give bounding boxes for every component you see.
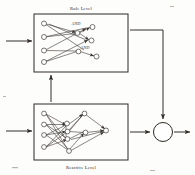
- reactive-input-node: [42, 111, 47, 116]
- scan-artifacts: [3, 6, 174, 171]
- rule-output-nodes: [89, 25, 99, 60]
- rule-output-node: [94, 54, 99, 59]
- reactive-hidden-node: [67, 149, 72, 154]
- rule-to-junction-arrow: [130, 30, 163, 119]
- reactive-input-node: [42, 145, 47, 150]
- block-diagram-svg: Rule Level: [0, 0, 195, 175]
- rule-network-edges: [45, 24, 95, 63]
- rule-level-box: [34, 14, 128, 72]
- rule-input-nodes: [42, 21, 47, 65]
- reactive-output-node: [104, 128, 109, 133]
- rule-input-node: [42, 48, 47, 53]
- reactive-hidden-node: [65, 121, 70, 126]
- reactive-input-nodes: [42, 111, 47, 149]
- reactive-hidden-node: [65, 129, 70, 134]
- reactive-hidden-node: [83, 130, 88, 135]
- rule-and-nodes: [75, 31, 81, 54]
- and-label-upper: AND: [72, 21, 81, 26]
- output-summing-junction: [154, 123, 173, 142]
- rule-input-node: [42, 35, 47, 40]
- rule-level-label: Rule Level: [70, 6, 92, 11]
- rule-output-node: [90, 25, 95, 30]
- reactive-level-label: Reactive Level: [66, 165, 96, 170]
- figure-container: Rule Level: [0, 0, 195, 175]
- reactive-hidden-node: [65, 137, 70, 142]
- rule-input-node: [42, 60, 47, 65]
- rule-output-node: [89, 38, 94, 43]
- reactive-input-node: [42, 122, 47, 127]
- reactive-hidden-node: [82, 111, 87, 116]
- and-label-lower: AND: [81, 45, 90, 50]
- reactive-input-node: [42, 133, 47, 138]
- reactive-network-edges: [46, 114, 105, 151]
- and-node: [75, 31, 80, 36]
- rule-input-node: [42, 21, 47, 26]
